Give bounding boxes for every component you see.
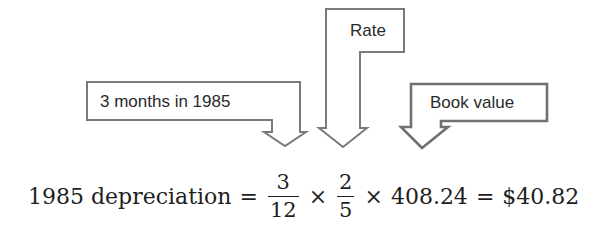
fraction-rate: 2 5 — [337, 172, 354, 221]
book-value-amount: 408.24 — [391, 184, 468, 209]
depreciation-result: $40.82 — [502, 184, 579, 209]
times-sign: × — [309, 184, 327, 209]
depreciation-equation: 1985 depreciation = 3 12 × 2 5 × 408.24 … — [28, 168, 579, 224]
callout-label-months: 3 months in 1985 — [100, 93, 230, 110]
fraction-months-numerator: 3 — [275, 172, 292, 196]
equals-sign: = — [476, 184, 494, 209]
depreciation-figure: 3 months in 1985 Rate Book value 1985 de… — [0, 0, 609, 226]
equation-lhs: 1985 depreciation — [28, 184, 231, 209]
fraction-months-denominator: 12 — [268, 197, 299, 221]
callout-label-book-value: Book value — [430, 94, 514, 111]
fraction-months: 3 12 — [268, 172, 299, 221]
fraction-rate-numerator: 2 — [337, 172, 354, 196]
times-sign: × — [364, 184, 382, 209]
equals-sign: = — [239, 184, 257, 209]
callout-label-rate: Rate — [350, 22, 386, 39]
fraction-rate-denominator: 5 — [337, 197, 354, 221]
